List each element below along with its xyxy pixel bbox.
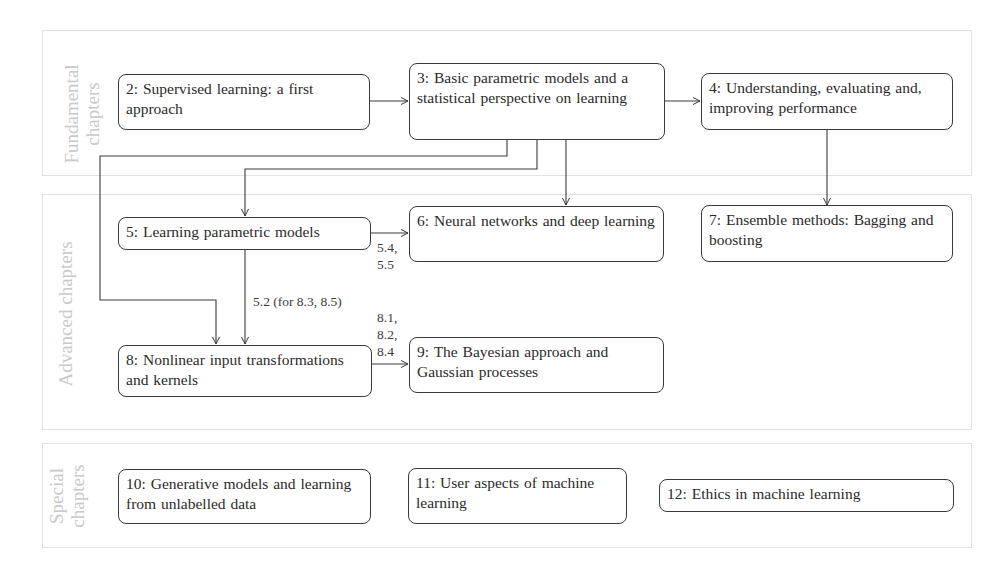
node-ch9-label: 9: The Bayesian approach and Gaussian pr… xyxy=(417,343,608,380)
node-ch12: 12: Ethics in machine learning xyxy=(659,479,954,512)
edge-ch3-ch5 xyxy=(245,140,537,216)
node-ch10: 10: Generative models and learning from … xyxy=(118,469,371,524)
edge-label-ch8-ch9-line1: 8.1, xyxy=(377,309,397,326)
edge-label-ch8-ch9-line3: 8.4 xyxy=(377,343,397,360)
edge-label-ch5-ch6: 5.4, 5.5 xyxy=(377,239,397,273)
edge-label-ch5-ch6-line1: 5.4, xyxy=(377,239,397,256)
edge-label-ch5-ch8: 5.2 (for 8.3, 8.5) xyxy=(253,293,342,310)
node-ch7-label: 7: Ensemble methods: Bagging and boostin… xyxy=(709,211,933,248)
node-ch8-label: 8: Nonlinear input transformations and k… xyxy=(126,351,344,388)
edge-label-ch5-ch8-text: 5.2 (for 8.3, 8.5) xyxy=(253,294,342,309)
node-ch7: 7: Ensemble methods: Bagging and boostin… xyxy=(701,205,953,262)
node-ch9: 9: The Bayesian approach and Gaussian pr… xyxy=(409,337,664,393)
node-ch3-label: 3: Basic parametric models and a statist… xyxy=(417,69,628,106)
node-ch5-label: 5: Learning parametric models xyxy=(126,223,320,240)
node-ch8: 8: Nonlinear input transformations and k… xyxy=(118,345,372,397)
node-ch3: 3: Basic parametric models and a statist… xyxy=(409,63,665,140)
node-ch10-label: 10: Generative models and learning from … xyxy=(126,475,351,512)
edge-label-ch5-ch6-line2: 5.5 xyxy=(377,256,397,273)
node-ch4-label: 4: Understanding, evaluating and, improv… xyxy=(709,79,922,116)
node-ch2-label: 2: Supervised learning: a first approach xyxy=(126,80,313,117)
node-ch12-label: 12: Ethics in machine learning xyxy=(667,485,860,502)
edge-label-ch8-ch9-line2: 8.2, xyxy=(377,326,397,343)
node-ch5: 5: Learning parametric models xyxy=(118,217,371,250)
node-ch11-label: 11: User aspects of machine learning xyxy=(416,474,594,511)
node-ch2: 2: Supervised learning: a first approach xyxy=(118,74,370,130)
node-ch4: 4: Understanding, evaluating and, improv… xyxy=(701,73,953,130)
node-ch11: 11: User aspects of machine learning xyxy=(408,468,627,524)
node-ch6-label: 6: Neural networks and deep learning xyxy=(417,212,655,229)
node-ch6: 6: Neural networks and deep learning xyxy=(409,206,664,262)
edge-label-ch8-ch9: 8.1, 8.2, 8.4 xyxy=(377,309,397,360)
